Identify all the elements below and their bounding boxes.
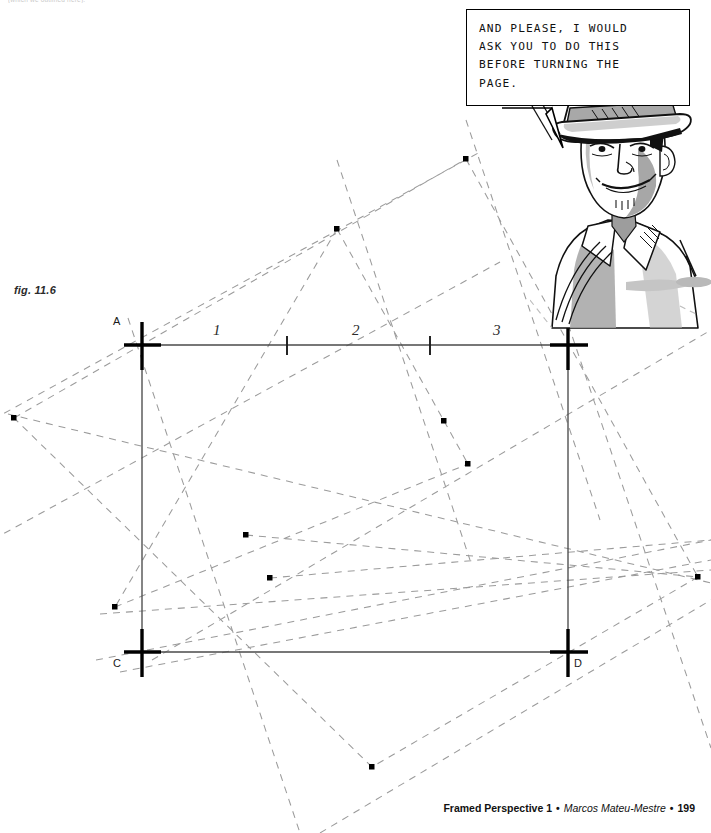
dashed-diagonal-1 (8, 414, 711, 583)
intersection-dot (369, 764, 375, 770)
corner-cross-marks (124, 322, 588, 677)
intersection-dot (441, 418, 447, 424)
dashed-construction-lines (0, 120, 711, 833)
dashed-inner-sweep-a (246, 535, 698, 577)
footer-separator-2: • (666, 802, 678, 814)
dashed-line-right-vp-2 (337, 160, 470, 560)
intersection-dot (112, 604, 118, 610)
segment-label-3: 3 (493, 322, 501, 339)
dashed-quad-edges (14, 159, 711, 767)
intersection-dot (334, 226, 340, 232)
dashed-line-right-vp-4 (560, 300, 711, 748)
dashed-line-left-vp-6 (320, 600, 711, 833)
footer: Framed Perspective 1•Marcos Mateu-Mestre… (443, 802, 695, 814)
segment-label-2: 2 (352, 322, 360, 339)
dashed-inner-short (444, 421, 468, 464)
vertex-label-A: A (113, 315, 120, 327)
intersection-dot (465, 461, 471, 467)
dashed-edge-lower-left (14, 418, 372, 767)
intersection-dot (11, 415, 17, 421)
footer-page-number: 199 (677, 802, 695, 814)
perspective-diagram (0, 0, 711, 833)
vertex-label-D: D (574, 657, 582, 669)
footer-book-title: Framed Perspective 1 (443, 802, 552, 814)
dashed-line-left-vp-1 (0, 152, 480, 432)
dashed-edge-lower-right (372, 577, 698, 767)
intersection-dots (11, 156, 701, 770)
dashed-diagonal-2 (152, 330, 711, 660)
dashed-line-left-vp-4 (96, 540, 711, 660)
dashed-inner-bottom (115, 464, 468, 607)
vertex-label-C: C (113, 657, 121, 669)
dashed-inner-left (115, 229, 337, 607)
intersection-dot (243, 532, 249, 538)
dashed-line-right-vp-1 (128, 318, 300, 833)
dashed-line-left-vp-3 (100, 570, 711, 614)
intersection-dot (463, 156, 469, 162)
dashed-edge-upper-right (466, 159, 698, 577)
speech-balloon-text: AND PLEASE, I WOULD ASK YOU TO DO THIS B… (479, 20, 679, 93)
segment-label-1: 1 (213, 322, 221, 339)
page-canvas: (which we outlined here). fig. 11.6 (0, 0, 711, 833)
dashed-line-left-vp-2 (0, 262, 500, 552)
dashed-edge-upper-left (14, 159, 466, 418)
vertex-label-B: B (576, 315, 583, 327)
dashed-line-left-vp-5 (120, 560, 711, 672)
intersection-dot (695, 574, 701, 580)
speech-balloon: AND PLEASE, I WOULD ASK YOU TO DO THIS B… (466, 9, 690, 106)
footer-author: Marcos Mateu-Mestre (564, 802, 666, 814)
intersection-dot (267, 575, 273, 581)
footer-separator-1: • (552, 802, 564, 814)
